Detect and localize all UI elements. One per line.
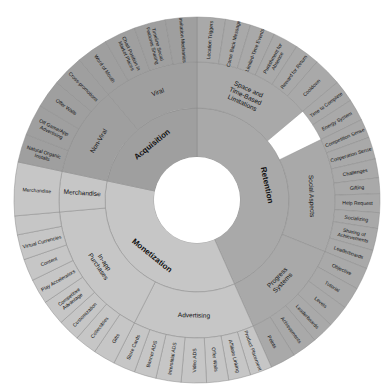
label-gifting: Gifting bbox=[350, 184, 365, 191]
label-help-request: Help Request bbox=[342, 200, 373, 207]
center-hole bbox=[154, 157, 240, 243]
label-video-ads: Video ADS bbox=[191, 348, 197, 373]
sunburst-chart: Location TriggersCome Back MessageLimite… bbox=[0, 0, 392, 392]
